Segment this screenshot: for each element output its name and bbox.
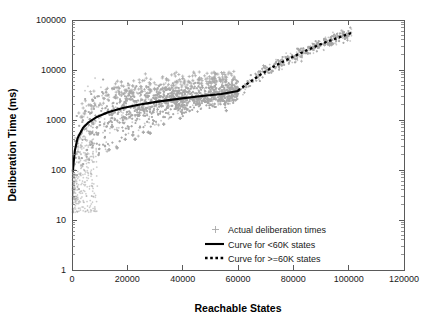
y-tick-label: 10	[56, 215, 66, 225]
x-tick-label: 80000	[281, 274, 306, 284]
x-axis-title: Reachable States	[195, 302, 282, 314]
y-tick-label: 100	[51, 165, 66, 175]
x-tick-label: 40000	[170, 274, 195, 284]
scatter-plot-figure: 0200004000060000800001000001200001101001…	[0, 0, 434, 321]
y-tick-label: 10000	[41, 65, 66, 75]
legend-label-actual: Actual deliberation times	[228, 225, 327, 235]
legend-item-actual: Actual deliberation times	[212, 225, 327, 235]
x-tick-label: 0	[69, 274, 74, 284]
y-axis-title: Deliberation Time (ms)	[6, 89, 18, 202]
y-tick-label: 1000	[46, 115, 66, 125]
x-tick-label: 120000	[389, 274, 419, 284]
x-tick-label: 100000	[334, 274, 364, 284]
y-tick-label: 1	[61, 265, 66, 275]
legend-label-solid: Curve for <60K states	[228, 240, 316, 250]
legend-label-dotted: Curve for >=60K states	[228, 254, 321, 264]
y-tick-label: 100000	[36, 15, 66, 25]
chart-container: 0200004000060000800001000001200001101001…	[0, 0, 434, 321]
x-tick-label: 60000	[225, 274, 250, 284]
x-tick-label: 20000	[115, 274, 140, 284]
